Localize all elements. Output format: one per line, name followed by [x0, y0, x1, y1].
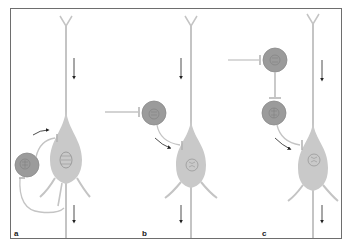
inhibitory-axon — [277, 125, 300, 145]
apical-tuft-icon — [307, 14, 319, 24]
neuron-diagram — [0, 0, 352, 245]
flow-arrow-icon — [33, 130, 48, 135]
interneuron-upper — [263, 48, 287, 72]
basal-dendrite — [58, 183, 62, 206]
flow-arrow-icon — [155, 138, 170, 148]
basal-dendrite — [165, 182, 181, 198]
panel-label-b: b — [142, 229, 147, 238]
panel-label-a: a — [14, 229, 18, 238]
pyramidal-soma — [298, 122, 328, 191]
pyramidal-soma — [176, 120, 206, 188]
basal-dendrite — [201, 182, 217, 198]
apical-tuft-icon — [185, 16, 197, 26]
basal-dendrite — [40, 178, 55, 197]
panel-a — [15, 16, 90, 238]
pyramidal-soma — [50, 110, 82, 184]
panel-c — [228, 14, 338, 238]
apical-tuft-icon — [60, 16, 72, 26]
interneuron — [142, 101, 166, 125]
flow-arrow-icon — [275, 138, 290, 149]
panel-label-c: c — [262, 229, 266, 238]
basal-dendrite — [288, 185, 303, 201]
inhibitory-axon — [157, 125, 180, 145]
panel-b — [105, 16, 217, 238]
basal-dendrite — [77, 178, 90, 197]
basal-dendrite — [323, 185, 338, 201]
